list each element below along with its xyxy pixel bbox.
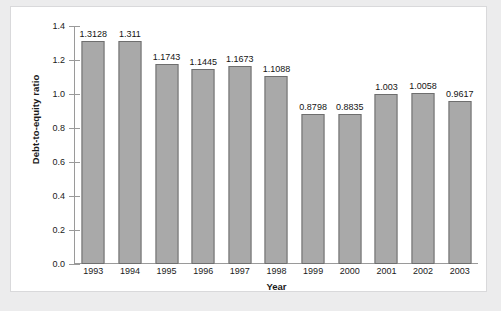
x-axis-ticks: 1993199419951996199719981999200020012002…	[75, 266, 478, 282]
x-axis-tick-label: 2002	[413, 266, 433, 276]
x-axis-tick-label: 1998	[266, 266, 286, 276]
bar-value-label: 1.1743	[153, 52, 181, 62]
y-axis-title: Debt-to-equity ratio	[30, 50, 41, 190]
x-axis-tick-label: 1999	[303, 266, 323, 276]
bar-group: 1.311	[112, 26, 149, 264]
bar	[155, 64, 178, 264]
x-axis-title: Year	[75, 281, 478, 292]
x-axis-tick-label: 1994	[120, 266, 140, 276]
bar-value-label: 0.8798	[299, 102, 327, 112]
bar-group: 1.003	[368, 26, 405, 264]
bar	[265, 76, 288, 264]
chart-card: Debt-to-equity ratio 0.00.20.40.60.81.01…	[10, 6, 487, 292]
x-axis-tick-label: 2001	[376, 266, 396, 276]
bar	[412, 93, 435, 264]
bar-group: 1.3128	[75, 26, 112, 264]
bar-value-label: 1.1088	[263, 64, 291, 74]
bar-series: 1.31281.3111.17431.14451.16731.10880.879…	[75, 26, 478, 264]
bar	[338, 114, 361, 264]
bar-group: 1.1673	[222, 26, 259, 264]
bar	[448, 101, 471, 264]
bar-group: 1.1743	[148, 26, 185, 264]
y-axis-tick-label: 0.2	[21, 225, 65, 235]
bar-group: 1.1445	[185, 26, 222, 264]
bar-group: 1.0058	[405, 26, 442, 264]
chart-plot-area: Debt-to-equity ratio 0.00.20.40.60.81.01…	[11, 7, 488, 293]
bar	[302, 114, 325, 264]
y-axis-tick-label: 0.8	[21, 123, 65, 133]
y-axis-tick-label: 1.0	[21, 89, 65, 99]
x-axis-tick-label: 1996	[193, 266, 213, 276]
x-axis-tick-label: 2000	[340, 266, 360, 276]
bar	[118, 41, 141, 264]
bar-group: 0.8835	[331, 26, 368, 264]
bar	[192, 69, 215, 264]
bar-value-label: 1.0058	[409, 81, 437, 91]
bar-value-label: 0.8835	[336, 102, 364, 112]
x-axis-tick-label: 1997	[230, 266, 250, 276]
bar-value-label: 0.9617	[446, 89, 474, 99]
y-axis-tick-label: 1.4	[21, 21, 65, 31]
bar-group: 0.8798	[295, 26, 332, 264]
bar	[375, 94, 398, 265]
y-axis-tick-mark	[69, 264, 80, 265]
y-axis-tick-label: 0.4	[21, 191, 65, 201]
bar-value-label: 1.1673	[226, 54, 254, 64]
x-axis-tick-label: 2003	[450, 266, 470, 276]
y-axis-tick-label: 1.2	[21, 55, 65, 65]
bar	[82, 41, 105, 264]
chart-screenshot: Debt-to-equity ratio 0.00.20.40.60.81.01…	[0, 0, 501, 311]
y-axis-tick-label: 0.6	[21, 157, 65, 167]
bar-value-label: 1.003	[375, 82, 398, 92]
bar-group: 0.9617	[441, 26, 478, 264]
y-axis-tick-label: 0.0	[21, 259, 65, 269]
bar-value-label: 1.1445	[189, 57, 217, 67]
bar	[228, 66, 251, 264]
x-axis-tick-label: 1993	[83, 266, 103, 276]
bar-value-label: 1.311	[119, 29, 141, 39]
bar-group: 1.1088	[258, 26, 295, 264]
x-axis-tick-label: 1995	[157, 266, 177, 276]
bar-value-label: 1.3128	[80, 29, 108, 39]
